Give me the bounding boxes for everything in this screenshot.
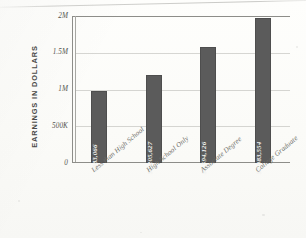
bar[interactable]: $1,983,554 — [255, 18, 271, 163]
y-axis-tick-label: 1.5M — [53, 48, 68, 56]
y-axis-tick-label: 1M — [58, 85, 68, 93]
y-axis-tick-label: 0 — [64, 159, 68, 167]
y-axis-tick-labels: 0500K1M1.5M2M — [36, 16, 68, 163]
plot-border-left — [72, 16, 73, 163]
y-axis-tick-label: 2M — [58, 12, 68, 20]
bar[interactable]: $1,594,126 — [200, 47, 216, 163]
y-axis-tick-label: 500K — [52, 122, 68, 130]
bar[interactable]: $983,066 — [91, 91, 107, 163]
bar-chart: EARNINGS IN DOLLARS 0500K1M1.5M2M $983,0… — [0, 0, 306, 238]
bar[interactable]: $1,205,627 — [146, 75, 162, 163]
plot-border-top — [72, 16, 290, 17]
